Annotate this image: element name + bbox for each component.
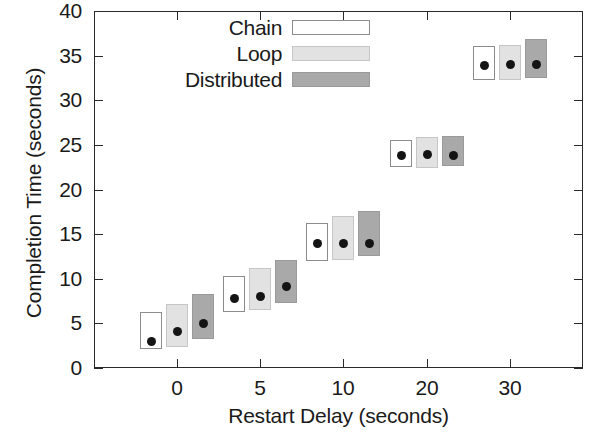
y-axis-tick-right — [574, 279, 583, 280]
median-marker-loop-5 — [256, 292, 265, 301]
y-axis-tick-right — [574, 368, 583, 369]
median-marker-chain-0 — [147, 337, 156, 346]
chart-figure: 0510152025303540 05102030 ChainLoopDistr… — [0, 0, 598, 436]
data-box-loop-5 — [249, 268, 271, 310]
x-axis-tick — [510, 359, 511, 368]
x-axis-tick — [427, 359, 428, 368]
x-axis-tick-label: 0 — [147, 377, 207, 399]
median-marker-distributed-10 — [365, 239, 374, 248]
median-marker-loop-20 — [423, 150, 432, 159]
legend: ChainLoopDistributed — [185, 16, 370, 91]
y-axis-tick-right — [574, 323, 583, 324]
y-axis-tick — [94, 368, 103, 369]
y-axis-title: Completion Time (seconds) — [23, 13, 45, 373]
legend-label-loop: Loop — [237, 42, 283, 65]
x-axis-tick-top — [177, 11, 178, 20]
y-axis-tick — [94, 145, 103, 146]
y-axis-tick — [94, 11, 103, 12]
data-box-distributed-10 — [358, 211, 380, 257]
median-marker-distributed-20 — [449, 151, 458, 160]
median-marker-loop-30 — [506, 60, 515, 69]
median-marker-loop-0 — [173, 327, 182, 336]
legend-label-distributed: Distributed — [185, 68, 282, 91]
x-axis-tick-label: 10 — [313, 377, 373, 399]
y-axis-tick-right — [574, 11, 583, 12]
x-axis-tick-label: 20 — [397, 377, 457, 399]
y-axis-tick — [94, 234, 103, 235]
y-axis-tick — [94, 323, 103, 324]
x-axis-tick-label: 5 — [230, 377, 290, 399]
y-axis-tick-right — [574, 234, 583, 235]
y-axis-tick — [94, 100, 103, 101]
x-axis-tick-label: 30 — [480, 377, 540, 399]
legend-swatch-distributed — [292, 72, 370, 87]
y-axis-tick — [94, 56, 103, 57]
median-marker-distributed-30 — [532, 60, 541, 69]
data-box-loop-0 — [166, 304, 188, 348]
legend-item-chain: Chain — [185, 16, 370, 39]
legend-swatch-loop — [292, 46, 370, 61]
legend-item-loop: Loop — [185, 42, 370, 65]
data-box-loop-10 — [332, 216, 354, 260]
median-marker-distributed-5 — [282, 282, 291, 291]
y-axis-tick-right — [574, 56, 583, 57]
legend-label-chain: Chain — [229, 16, 282, 39]
median-marker-chain-30 — [480, 61, 489, 70]
x-axis-tick-top — [427, 11, 428, 20]
data-box-distributed-30 — [525, 39, 547, 78]
y-axis-tick — [94, 190, 103, 191]
legend-item-distributed: Distributed — [185, 68, 370, 91]
x-axis-tick-top — [510, 11, 511, 20]
y-axis-tick-right — [574, 145, 583, 146]
x-axis-tick — [177, 359, 178, 368]
median-marker-distributed-0 — [199, 319, 208, 328]
y-axis-tick — [94, 279, 103, 280]
median-marker-chain-10 — [313, 239, 322, 248]
legend-swatch-chain — [292, 20, 370, 35]
data-box-distributed-0 — [192, 294, 214, 340]
x-axis-tick — [343, 359, 344, 368]
y-axis-tick-right — [574, 190, 583, 191]
median-marker-chain-20 — [397, 151, 406, 160]
y-axis-tick-right — [574, 100, 583, 101]
x-axis-tick — [260, 359, 261, 368]
median-marker-chain-5 — [230, 294, 239, 303]
x-axis-title: Restart Delay (seconds) — [94, 404, 583, 428]
median-marker-loop-10 — [339, 239, 348, 248]
